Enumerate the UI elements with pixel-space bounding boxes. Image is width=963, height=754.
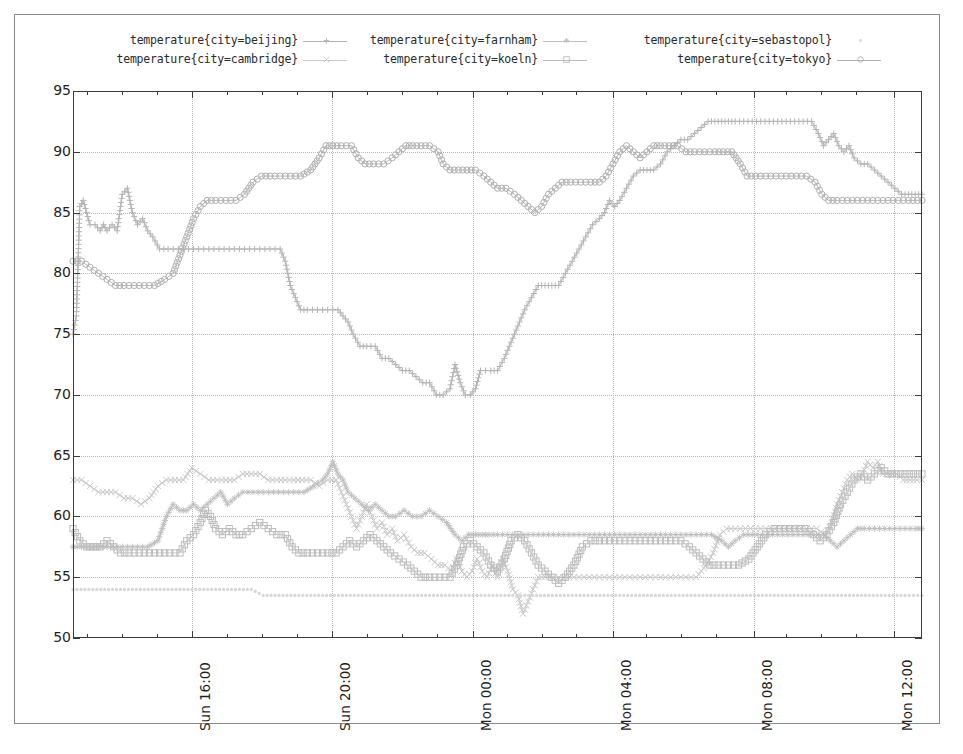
chart-frame: temperature{city=beijing}temperature{cit… <box>14 14 940 724</box>
x-tick-label: Mon 12:00 <box>899 659 915 731</box>
x-tick-minor <box>122 634 123 638</box>
x-tick-minor <box>856 91 857 95</box>
legend-entry-0[interactable]: temperature{city=beijing} <box>111 31 347 48</box>
x-tick-minor <box>646 91 647 95</box>
y-tick-label: 60 <box>11 507 71 523</box>
x-tick-major <box>613 631 614 638</box>
y-tick-mark <box>73 638 80 639</box>
x-tick-minor <box>87 634 88 638</box>
x-tick-minor <box>87 91 88 95</box>
x-tick-minor <box>716 634 717 638</box>
y-tick-mark <box>915 213 922 214</box>
x-tick-label: Sun 20:00 <box>337 662 353 731</box>
x-tick-minor <box>507 634 508 638</box>
y-tick-label: 90 <box>11 143 71 159</box>
chart-legend: temperature{city=beijing}temperature{cit… <box>15 31 941 77</box>
x-tick-major <box>473 91 474 98</box>
legend-label: temperature{city=beijing} <box>130 33 298 47</box>
y-tick-mark <box>915 91 922 92</box>
x-tick-minor <box>297 91 298 95</box>
legend-entry-1[interactable]: temperature{city=cambridge} <box>111 50 347 67</box>
x-tick-major <box>332 631 333 638</box>
x-tick-label: Sun 16:00 <box>197 662 213 731</box>
x-tick-minor <box>367 91 368 95</box>
y-tick-label: 75 <box>11 325 71 341</box>
x-tick-minor <box>646 634 647 638</box>
legend-label: temperature{city=sebastopol} <box>644 33 832 47</box>
y-tick-mark <box>915 273 922 274</box>
x-tick-minor <box>437 91 438 95</box>
y-tick-mark <box>915 152 922 153</box>
legend-entry-4[interactable]: temperature{city=sebastopol} <box>591 31 881 48</box>
legend-key-square-icon <box>543 55 587 65</box>
y-tick-mark <box>73 273 80 274</box>
x-tick-minor <box>262 91 263 95</box>
y-tick-label: 70 <box>11 386 71 402</box>
y-tick-mark <box>73 395 80 396</box>
legend-key-circle-icon <box>837 55 881 65</box>
y-tick-label: 80 <box>11 264 71 280</box>
legend-entry-3[interactable]: temperature{city=koeln} <box>351 50 587 67</box>
y-tick-mark <box>915 456 922 457</box>
y-tick-label: 65 <box>11 447 71 463</box>
y-tick-mark <box>73 213 80 214</box>
x-tick-label: Mon 08:00 <box>759 659 775 731</box>
legend-key-star-icon <box>543 36 587 46</box>
y-tick-label: 95 <box>11 82 71 98</box>
x-tick-minor <box>262 634 263 638</box>
axes-box <box>73 91 922 638</box>
legend-entry-5[interactable]: temperature{city=tokyo} <box>591 50 881 67</box>
legend-key-plus-icon <box>303 36 347 46</box>
x-tick-label: Mon 00:00 <box>478 659 494 731</box>
legend-label: temperature{city=cambridge} <box>116 52 298 66</box>
y-tick-mark <box>915 516 922 517</box>
legend-label: temperature{city=koeln} <box>383 52 538 66</box>
x-tick-minor <box>507 91 508 95</box>
x-tick-minor <box>297 634 298 638</box>
x-tick-minor <box>402 634 403 638</box>
y-tick-mark <box>915 638 922 639</box>
x-tick-minor <box>821 634 822 638</box>
x-tick-major <box>613 91 614 98</box>
x-tick-minor <box>576 91 577 95</box>
x-tick-major <box>754 91 755 98</box>
x-tick-major <box>192 91 193 98</box>
legend-key-cross-icon <box>303 55 347 65</box>
y-tick-mark <box>915 334 922 335</box>
x-tick-minor <box>681 634 682 638</box>
x-tick-minor <box>821 91 822 95</box>
y-tick-mark <box>73 456 80 457</box>
x-tick-minor <box>227 634 228 638</box>
x-tick-minor <box>786 634 787 638</box>
legend-label: temperature{city=tokyo} <box>677 52 832 66</box>
x-tick-minor <box>227 91 228 95</box>
x-tick-minor <box>856 634 857 638</box>
x-tick-minor <box>786 91 787 95</box>
y-tick-mark <box>73 516 80 517</box>
y-tick-mark <box>73 91 80 92</box>
x-tick-minor <box>157 634 158 638</box>
x-tick-minor <box>542 91 543 95</box>
x-tick-minor <box>157 91 158 95</box>
x-tick-minor <box>437 634 438 638</box>
x-tick-minor <box>402 91 403 95</box>
y-tick-mark <box>73 152 80 153</box>
x-tick-minor <box>542 634 543 638</box>
x-tick-major <box>754 631 755 638</box>
y-tick-label: 85 <box>11 204 71 220</box>
x-tick-minor <box>367 634 368 638</box>
x-tick-major <box>894 631 895 638</box>
y-tick-mark <box>73 334 80 335</box>
y-tick-mark <box>915 577 922 578</box>
x-tick-minor <box>716 91 717 95</box>
y-tick-label: 50 <box>11 629 71 645</box>
y-tick-label: 55 <box>11 568 71 584</box>
y-tick-mark <box>73 577 80 578</box>
legend-entry-2[interactable]: temperature{city=farnham} <box>351 31 587 48</box>
x-tick-minor <box>122 91 123 95</box>
x-tick-minor <box>576 634 577 638</box>
legend-key-dot-icon <box>837 36 881 46</box>
x-tick-minor <box>681 91 682 95</box>
legend-label: temperature{city=farnham} <box>370 33 538 47</box>
y-tick-mark <box>915 395 922 396</box>
